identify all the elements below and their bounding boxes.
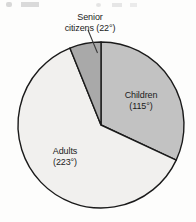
chart-page: Senior citizens (22°) Children (115°) Ad…	[0, 0, 196, 222]
children-label-line1: Children	[125, 90, 158, 100]
slice-label-adults: Adults (223°)	[36, 146, 94, 168]
slice-label-children: Children (115°)	[113, 90, 169, 112]
senior-citizens-label-line2: citizens (22°)	[38, 23, 142, 34]
children-label-line2: (115°)	[113, 101, 169, 112]
senior-citizens-label-line1: Senior	[77, 12, 102, 22]
adults-label-line2: (223°)	[36, 157, 94, 168]
adults-label-line1: Adults	[53, 146, 77, 156]
pie-slices-group	[18, 42, 184, 208]
slice-label-senior-citizens: Senior citizens (22°)	[38, 12, 142, 34]
